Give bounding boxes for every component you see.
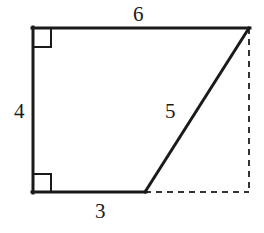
canvas-background [0,0,264,233]
side-length-label-bottom: 3 [95,201,106,222]
side-length-label-left: 4 [14,101,25,122]
side-length-label-diagonal: 5 [165,101,176,122]
geometry-figure: 6 4 5 3 [0,0,264,233]
side-length-label-top: 6 [133,4,144,25]
figure-canvas [0,0,264,233]
